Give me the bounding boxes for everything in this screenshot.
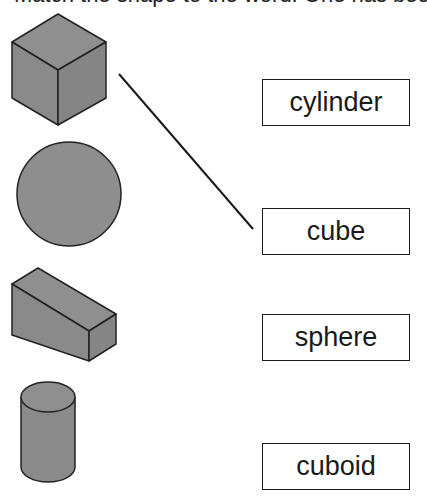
label-cuboid[interactable]: cuboid <box>262 443 410 490</box>
label-cube[interactable]: cube <box>262 208 410 255</box>
label-cylinder[interactable]: cylinder <box>262 79 410 126</box>
cylinder-top <box>21 382 75 412</box>
cylinder-shape[interactable] <box>21 382 75 482</box>
cube-shape[interactable] <box>12 14 106 125</box>
match-line[interactable] <box>119 74 253 229</box>
label-sphere[interactable]: sphere <box>262 314 410 361</box>
sphere-shape[interactable] <box>17 142 121 246</box>
cuboid-shape[interactable] <box>12 268 116 361</box>
